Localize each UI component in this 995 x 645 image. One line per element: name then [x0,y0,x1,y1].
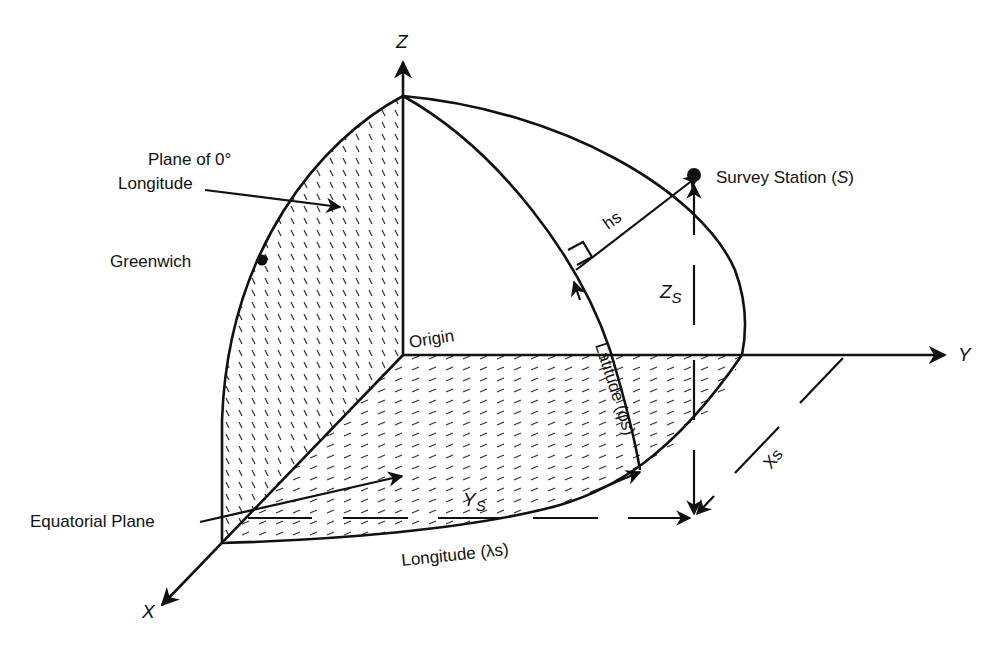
longitude-label: Longitude (λs) [400,540,509,570]
zs-label: ZS [659,281,682,306]
x-axis-label: X [141,601,156,622]
y-axis-label: Y [958,344,972,365]
xs-dash-3 [697,496,714,514]
greenwich-label: Greenwich [110,252,191,271]
xs-label: Xs [760,445,787,472]
geodetic-diagram: Z Y X Plane of 0° Longitude Greenwich Or… [0,0,995,645]
hs-normal-line [576,176,698,270]
z-axis-label: Z [395,31,409,52]
plane-zero-label-line2: Longitude [118,174,193,193]
origin-label: Origin [408,326,456,352]
greenwich-point [257,255,268,266]
survey-station-label: Survey Station (S) [716,168,854,187]
equatorial-plane-label: Equatorial Plane [30,512,155,531]
hs-label: hs [599,207,625,233]
xs-dash-1 [800,358,843,403]
plane-zero-label-line1: Plane of 0° [148,150,231,169]
latitude-arrow [574,282,580,300]
survey-station-point [687,168,701,182]
